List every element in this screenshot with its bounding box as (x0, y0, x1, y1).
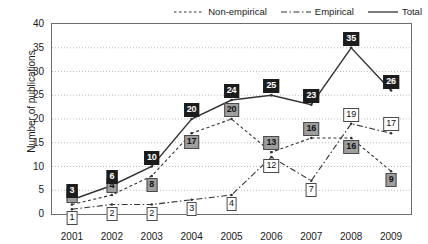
y-axis-tick-label: 15 (22, 138, 44, 148)
data-point-label: 4 (226, 197, 237, 211)
y-axis-tick-label: 30 (22, 67, 44, 77)
x-axis-tick-label: 2009 (380, 231, 402, 242)
data-point-label: 19 (343, 108, 359, 122)
chart-legend: Non-empirical Empirical Total (160, 4, 422, 20)
y-axis-tick-labels: 0510152025303540 (22, 0, 44, 244)
y-axis-tick-label: 0 (22, 209, 44, 219)
legend-label-non-empirical: Non-empirical (208, 7, 267, 17)
publications-line-chart: Non-empirical Empirical Total Number of … (0, 0, 428, 244)
y-axis-tick-label: 25 (22, 90, 44, 100)
y-axis-tick-label: 10 (22, 162, 44, 172)
y-axis-tick-label: 40 (22, 19, 44, 29)
data-point-label: 10 (144, 151, 160, 165)
x-axis-tick-label: 2008 (340, 231, 362, 242)
data-point-label: 2 (146, 207, 157, 221)
data-point-label: 20 (184, 103, 200, 117)
legend-item-non-empirical: Non-empirical (174, 7, 267, 17)
y-axis-tick-label: 5 (22, 185, 44, 195)
data-point-label: 12 (264, 159, 280, 173)
data-point-label: 13 (264, 136, 280, 150)
data-point-label: 17 (383, 117, 399, 131)
data-point-label: 3 (67, 184, 78, 198)
data-point-label: 7 (306, 183, 317, 197)
y-axis-tick-label: 35 (22, 43, 44, 53)
legend-item-empirical: Empirical (281, 7, 354, 17)
data-point-label: 25 (264, 79, 280, 93)
data-point-label: 9 (386, 173, 397, 187)
legend-label-total: Total (402, 7, 422, 17)
solid-line-icon (368, 8, 398, 16)
dash-dot-line-icon (281, 8, 311, 16)
x-axis-tick-label: 2001 (61, 231, 83, 242)
data-point-label: 26 (383, 75, 399, 89)
x-axis-tick-label: 2007 (300, 231, 322, 242)
data-point-label: 16 (303, 122, 319, 136)
data-point-label: 3 (186, 202, 197, 216)
data-point-label: 1 (67, 211, 78, 225)
data-point-label: 35 (343, 32, 359, 46)
x-axis-tick-label: 2006 (260, 231, 282, 242)
data-point-label: 16 (343, 140, 359, 154)
legend-item-total: Total (368, 7, 422, 17)
data-point-label: 24 (224, 84, 240, 98)
data-point-label: 2 (106, 207, 117, 221)
data-point-label: 8 (146, 178, 157, 192)
x-axis-tick-label: 2002 (101, 231, 123, 242)
x-axis-tick-label: 2003 (141, 231, 163, 242)
data-point-label: 23 (303, 89, 319, 103)
x-axis-tick-label: 2005 (220, 231, 242, 242)
x-axis-tick-label: 2004 (180, 231, 202, 242)
y-axis-tick-label: 20 (22, 114, 44, 124)
legend-label-empirical: Empirical (315, 7, 354, 17)
dashed-line-icon (174, 8, 204, 16)
data-point-label: 6 (106, 170, 117, 184)
data-point-label: 20 (224, 103, 240, 117)
data-point-label: 17 (184, 135, 200, 149)
